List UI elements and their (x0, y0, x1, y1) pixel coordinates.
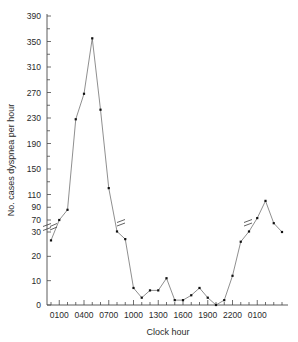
y-tick-label: 350 (27, 37, 41, 47)
data-point-marker (240, 241, 242, 243)
y-tick-label: 0 (36, 300, 41, 310)
y-tick-label: 150 (27, 164, 41, 174)
data-point-marker (116, 230, 118, 232)
y-tick-label: 190 (27, 139, 41, 149)
data-point-marker (174, 299, 176, 301)
y-tick-label: 20 (32, 251, 42, 261)
data-point-marker (75, 118, 77, 120)
y-axis-ticks (47, 16, 51, 305)
y-tick-label: 90 (32, 202, 42, 212)
data-point-marker (231, 275, 233, 277)
x-tick-label: 0100 (248, 310, 267, 320)
y-tick-label: 270 (27, 88, 41, 98)
data-point-marker (182, 299, 184, 301)
x-tick-label: 1300 (149, 310, 168, 320)
data-point-marker (248, 230, 250, 232)
y-axis-title: No. cases dyspnea per hour (6, 104, 16, 217)
data-point-marker (264, 200, 266, 202)
data-point-marker (281, 231, 283, 233)
data-point-marker (50, 239, 52, 241)
data-point-marker (190, 294, 192, 296)
y-tick-label: 230 (27, 113, 41, 123)
x-tick-label: 2200 (223, 310, 242, 320)
data-point-marker (124, 238, 126, 240)
x-tick-label: 1000 (124, 310, 143, 320)
x-axis-title: Clock hour (146, 327, 189, 337)
data-point-marker (108, 187, 110, 189)
data-point-marker (207, 297, 209, 299)
series-markers (50, 37, 283, 306)
data-point-marker (132, 287, 134, 289)
data-point-marker (223, 299, 225, 301)
data-point-marker (165, 277, 167, 279)
chart-canvas: 39035031027023019015011090703020100 0100… (0, 0, 298, 342)
y-tick-label: 310 (27, 62, 41, 72)
data-point-marker (83, 93, 85, 95)
data-point-marker (66, 209, 68, 211)
data-point-marker (99, 109, 101, 111)
x-tick-label: 1600 (174, 310, 193, 320)
x-tick-label: 1900 (198, 310, 217, 320)
y-tick-label: 110 (27, 190, 41, 200)
data-point-marker (91, 37, 93, 39)
dyspnea-line-chart: 39035031027023019015011090703020100 0100… (0, 0, 298, 342)
y-tick-label: 30 (32, 227, 42, 237)
series-break-markers (50, 220, 252, 231)
series-line-dyspnea (51, 38, 282, 305)
data-point-marker (157, 289, 159, 291)
data-point-marker (198, 287, 200, 289)
data-point-marker (149, 289, 151, 291)
x-tick-label: 0100 (50, 310, 69, 320)
x-tick-label: 0700 (99, 310, 118, 320)
y-tick-label: 390 (27, 11, 41, 21)
y-tick-label: 70 (32, 215, 42, 225)
y-tick-label: 10 (32, 276, 42, 286)
x-axis-tick-labels: 010004000700100013001600190022000100 (50, 310, 267, 320)
data-point-marker (141, 297, 143, 299)
x-tick-label: 0400 (75, 310, 94, 320)
y-axis-tick-labels: 39035031027023019015011090703020100 (27, 11, 41, 310)
data-point-marker (256, 217, 258, 219)
data-point-marker (215, 304, 217, 306)
data-point-marker (273, 222, 275, 224)
x-axis-ticks (51, 300, 282, 305)
data-point-marker (58, 219, 60, 221)
